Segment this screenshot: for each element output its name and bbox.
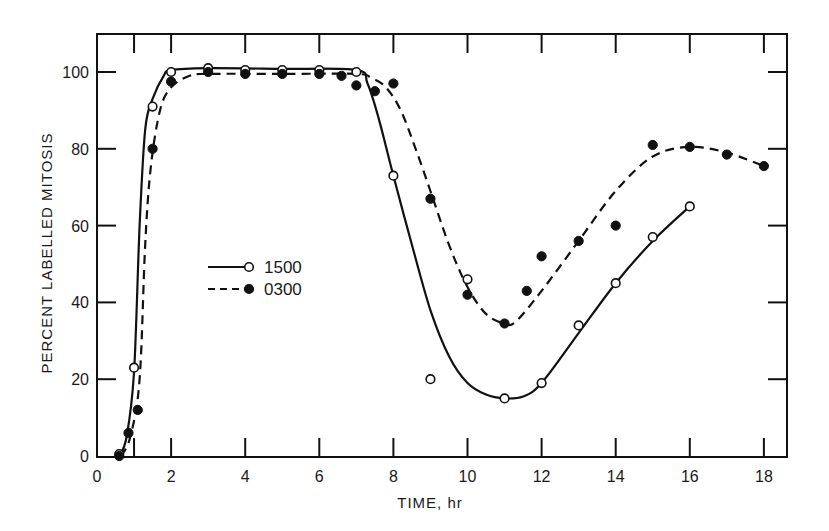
filled-circle-marker: [648, 140, 657, 149]
series-curves: [119, 68, 764, 456]
open-circle-marker: [426, 375, 435, 384]
open-circle-marker: [611, 279, 620, 288]
filled-circle-marker: [148, 144, 157, 153]
legend-label: 1500: [264, 258, 302, 277]
filled-circle-marker: [124, 428, 133, 437]
filled-circle-marker: [337, 71, 346, 80]
open-circle-marker: [352, 68, 361, 77]
filled-circle-marker: [115, 451, 124, 460]
plot-frame: [97, 34, 787, 457]
series-curve-1500: [119, 68, 690, 456]
x-tick-label: 12: [533, 468, 551, 485]
filled-circle-marker: [352, 81, 361, 90]
filled-circle-marker: [537, 252, 546, 261]
open-circle-marker: [389, 171, 398, 180]
filled-circle-marker: [315, 69, 324, 78]
filled-circle-marker: [389, 79, 398, 88]
open-circle-marker: [500, 394, 509, 403]
open-circle-marker: [148, 102, 157, 111]
filled-circle-marker: [204, 67, 213, 76]
x-tick-label: 14: [607, 468, 625, 485]
open-circle-marker: [167, 68, 176, 77]
filled-circle-marker: [278, 69, 287, 78]
x-tick-label: 4: [241, 468, 250, 485]
filled-circle-marker-icon: [245, 285, 254, 294]
legend-item-1500: 1500: [208, 258, 302, 277]
legend-label: 0300: [264, 280, 302, 299]
y-tick-label: 20: [71, 371, 89, 388]
open-circle-marker: [648, 233, 657, 242]
filled-circle-marker: [722, 150, 731, 159]
x-tick-label: 0: [93, 468, 102, 485]
series-curve-0300: [121, 74, 764, 456]
filled-circle-marker: [463, 290, 472, 299]
open-circle-marker: [130, 363, 139, 372]
filled-circle-marker: [574, 236, 583, 245]
open-circle-marker-icon: [245, 263, 254, 272]
filled-circle-marker: [426, 194, 435, 203]
filled-circle-marker: [759, 161, 768, 170]
y-tick-label: 80: [71, 141, 89, 158]
filled-circle-marker: [611, 221, 620, 230]
legend-item-0300: 0300: [208, 280, 302, 299]
open-circle-marker: [463, 275, 472, 284]
y-tick-label: 40: [71, 294, 89, 311]
y-tick-label: 60: [71, 218, 89, 235]
y-axis-title: PERCENT LABELLED MITOSIS: [38, 132, 55, 373]
x-tick-label: 10: [459, 468, 477, 485]
x-axis-title: TIME, hr: [397, 494, 463, 511]
filled-circle-marker: [370, 87, 379, 96]
filled-circle-marker: [685, 142, 694, 151]
x-tick-label: 2: [167, 468, 176, 485]
x-tick-label: 18: [755, 468, 773, 485]
filled-circle-marker: [522, 286, 531, 295]
open-circle-marker: [574, 321, 583, 330]
x-tick-label: 8: [389, 468, 398, 485]
x-tick-label: 16: [681, 468, 699, 485]
y-tick-label: 0: [80, 448, 89, 465]
filled-circle-marker: [241, 69, 250, 78]
x-tick-label: 6: [315, 468, 324, 485]
filled-circle-marker: [167, 77, 176, 86]
data-points: [115, 64, 769, 461]
plot-border: [97, 34, 787, 457]
mitosis-chart: 024681012141618020406080100 15000300 TIM…: [0, 0, 829, 531]
filled-circle-marker: [133, 405, 142, 414]
filled-circle-marker: [500, 319, 509, 328]
axis-ticks: 024681012141618020406080100: [62, 34, 787, 485]
open-circle-marker: [686, 202, 695, 211]
legend: 15000300: [208, 258, 302, 299]
y-tick-label: 100: [62, 64, 89, 81]
open-circle-marker: [537, 379, 546, 388]
